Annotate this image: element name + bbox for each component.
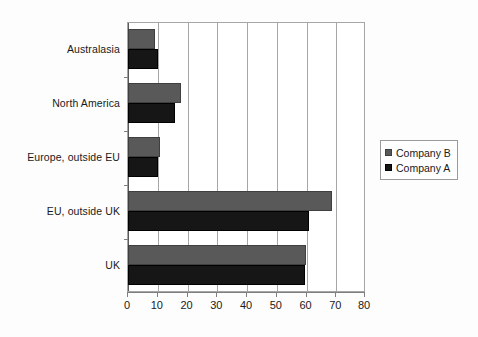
bar-group-europe-outside-eu xyxy=(128,131,364,185)
xtick-mark-40 xyxy=(246,292,247,297)
category-label-north-america: North America xyxy=(52,76,120,130)
xtick-mark-20 xyxy=(187,292,188,297)
legend-label-company-a: Company A xyxy=(396,162,450,174)
bar-europe-outside-eu-company-a[interactable] xyxy=(128,157,158,177)
bar-group-eu-outside-uk xyxy=(128,185,364,239)
xtick-mark-30 xyxy=(216,292,217,297)
bar-australasia-company-a[interactable] xyxy=(128,49,158,69)
xtick-label-30: 30 xyxy=(210,299,222,311)
bar-group-uk xyxy=(128,239,364,293)
xtick-label-80: 80 xyxy=(358,299,370,311)
xtick-mark-70 xyxy=(335,292,336,297)
xtick-label-70: 70 xyxy=(329,299,341,311)
bar-group-north-america xyxy=(128,77,364,131)
bar-eu-outside-uk-company-a[interactable] xyxy=(128,211,309,231)
bar-north-america-company-b[interactable] xyxy=(128,83,181,103)
xtick-label-50: 50 xyxy=(270,299,282,311)
legend-item-company-b[interactable]: Company B xyxy=(385,145,451,160)
xtick-label-10: 10 xyxy=(151,299,163,311)
plot-area xyxy=(127,22,365,292)
xtick-mark-0 xyxy=(127,292,128,297)
xtick-label-20: 20 xyxy=(180,299,192,311)
bar-eu-outside-uk-company-b[interactable] xyxy=(128,191,332,211)
bar-group-australasia xyxy=(128,23,364,77)
category-axis-labels: Australasia North America Europe, outsid… xyxy=(0,22,124,292)
category-label-eu-outside-uk: EU, outside UK xyxy=(47,184,120,238)
legend-item-company-a[interactable]: Company A xyxy=(385,160,451,175)
xtick-mark-50 xyxy=(276,292,277,297)
bar-uk-company-a[interactable] xyxy=(128,265,305,285)
bar-uk-company-b[interactable] xyxy=(128,245,306,265)
legend-swatch-icon-company-b xyxy=(385,149,392,156)
xtick-label-60: 60 xyxy=(299,299,311,311)
xtick-label-0: 0 xyxy=(124,299,130,311)
bar-australasia-company-b[interactable] xyxy=(128,29,155,49)
bar-north-america-company-a[interactable] xyxy=(128,103,175,123)
value-axis: 0 10 20 30 40 50 60 70 80 xyxy=(127,292,365,322)
category-label-australasia: Australasia xyxy=(67,22,120,76)
xtick-mark-60 xyxy=(306,292,307,297)
xtick-label-40: 40 xyxy=(240,299,252,311)
legend: Company B Company A xyxy=(380,140,458,180)
xtick-mark-10 xyxy=(157,292,158,297)
bar-europe-outside-eu-company-b[interactable] xyxy=(128,137,160,157)
category-label-uk: UK xyxy=(105,238,120,292)
category-label-europe-outside-eu: Europe, outside EU xyxy=(27,130,120,184)
bar-chart: Australasia North America Europe, outsid… xyxy=(0,0,478,337)
legend-swatch-icon-company-a xyxy=(385,164,392,171)
legend-label-company-b: Company B xyxy=(396,147,451,159)
xtick-mark-80 xyxy=(364,292,365,297)
